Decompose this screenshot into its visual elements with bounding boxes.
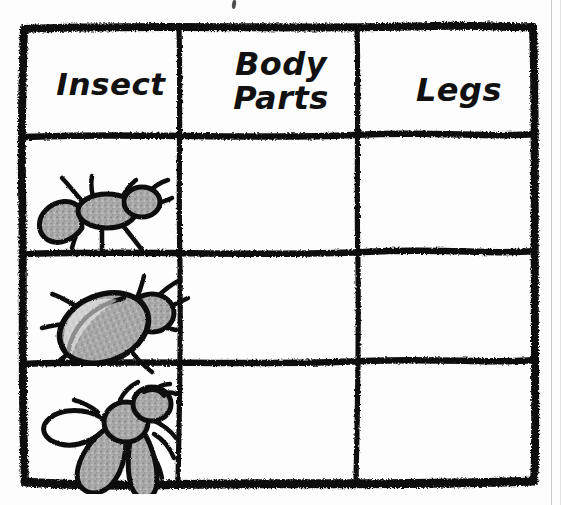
stray-ink-mark [231, 0, 236, 9]
answer-cell-beetle-legs[interactable] [362, 258, 530, 360]
worksheet-page: Insect Body Parts Legs [0, 0, 561, 505]
insect-cell-beetle [20, 258, 178, 360]
insect-cell-ant [20, 142, 178, 250]
answer-cell-fly-body-parts[interactable] [184, 368, 352, 478]
answer-cell-beetle-body-parts[interactable] [184, 258, 352, 360]
column-header-body-parts: Body Parts [192, 48, 368, 116]
column-header-legs: Legs [374, 74, 544, 108]
answer-cell-fly-legs[interactable] [362, 368, 530, 478]
scan-edge-line [551, 0, 552, 505]
answer-cell-ant-legs[interactable] [362, 142, 530, 250]
answer-cell-ant-body-parts[interactable] [184, 142, 352, 250]
column-header-insect: Insect [36, 68, 186, 101]
insect-cell-fly [20, 368, 178, 478]
insect-table: Insect Body Parts Legs [14, 16, 544, 494]
